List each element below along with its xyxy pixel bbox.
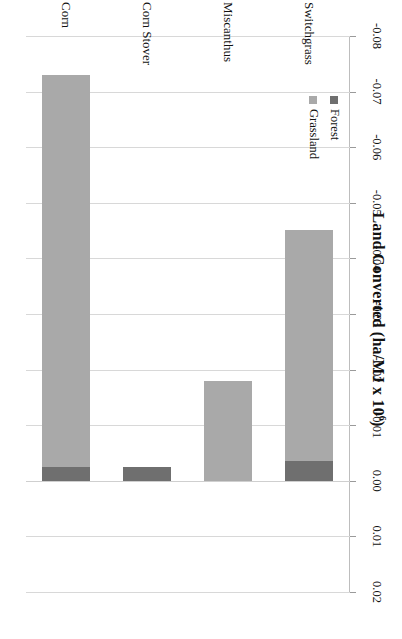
x-axis-tick-label: -0.06: [369, 134, 384, 160]
bar-segment-forest: [124, 467, 172, 480]
x-axis-tick-label: -0.05: [369, 190, 384, 216]
x-axis-tick: [349, 314, 356, 315]
legend-swatch-grassland-icon: [310, 96, 318, 104]
category-label-corn: Corn: [59, 2, 75, 28]
x-axis-tick-label: -0.02: [369, 357, 384, 383]
gridline: [26, 592, 350, 593]
x-axis-tick-label: -0.01: [369, 412, 384, 438]
legend-label-forest: Forest: [327, 109, 342, 140]
chart-figure: Land Converted (ha/MJ x 106) -0.08-0.07-…: [0, 0, 402, 639]
x-axis-tick-label: -0.08: [369, 23, 384, 49]
bar-segment-forest: [43, 467, 91, 480]
bar-corn: [43, 36, 91, 592]
bar-miscanthus: [205, 36, 253, 592]
x-axis-tick-label: 0.02: [369, 581, 384, 603]
bar-segment-grassland: [286, 230, 334, 461]
x-axis-tick: [349, 536, 356, 537]
x-axis-tick: [349, 481, 356, 482]
x-axis-tick: [349, 36, 356, 37]
bar-segment-grassland: [205, 381, 253, 481]
x-axis-tick: [349, 92, 356, 93]
x-axis-tick: [349, 592, 356, 593]
x-axis-tick-label: -0.03: [369, 301, 384, 327]
x-axis-tick: [349, 425, 356, 426]
category-label-corn-stover: Corn Stover: [140, 2, 156, 65]
x-axis-tick: [349, 370, 356, 371]
legend-label-grassland: Grassland: [306, 109, 321, 159]
category-label-miscanthus: Miscanthus: [221, 2, 237, 62]
legend-item-forest: Forest: [327, 96, 342, 159]
chart-legend: Forest Grassland: [300, 96, 342, 159]
legend-item-grassland: Grassland: [306, 96, 321, 159]
legend-swatch-forest-icon: [331, 96, 339, 104]
x-axis-tick-label: 0.00: [369, 470, 384, 492]
bar-segment-forest: [286, 461, 334, 481]
category-label-switchgrass: Switchgrass: [302, 2, 318, 65]
bar-corn-stover: [124, 36, 172, 592]
x-axis-tick-label: -0.07: [369, 79, 384, 105]
x-axis-tick: [349, 147, 356, 148]
x-axis-tick: [349, 258, 356, 259]
x-axis-tick-label: -0.04: [369, 245, 384, 271]
bar-segment-grassland: [43, 75, 91, 467]
x-axis-tick: [349, 203, 356, 204]
x-axis-tick-label: 0.01: [369, 525, 384, 547]
